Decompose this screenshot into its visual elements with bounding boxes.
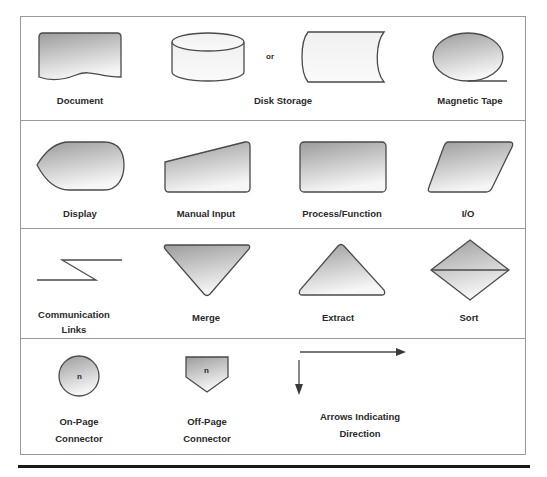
row-divider	[20, 228, 526, 229]
document-icon	[36, 31, 126, 83]
or-separator: or	[266, 52, 274, 61]
magnetic-tape-icon	[433, 30, 509, 86]
magnetic-tape-label: Magnetic Tape	[437, 93, 502, 108]
process-function-label: Process/Function	[302, 206, 382, 221]
off-page-connector-icon	[184, 355, 230, 395]
disk-storage-cylinder-icon	[170, 30, 246, 86]
display-icon	[36, 140, 126, 196]
on-page-connector-label: On-Page Connector	[55, 414, 103, 446]
off-page-connector-glyph: n	[204, 366, 209, 375]
off-page-connector-label: Off-Page Connector	[183, 414, 231, 446]
io-label: I/O	[462, 206, 475, 221]
communication-links-label: Communication Links	[38, 307, 110, 337]
sort-icon	[430, 238, 512, 304]
display-label: Display	[63, 206, 97, 221]
extract-label: Extract	[322, 310, 354, 325]
arrows-direction-icon	[292, 346, 412, 398]
merge-label: Merge	[192, 310, 220, 325]
disk-storage-label: Disk Storage	[254, 93, 312, 108]
sort-label: Sort	[460, 310, 479, 325]
row-divider	[20, 120, 526, 121]
arrows-direction-label: Arrows Indicating Direction	[320, 409, 400, 441]
process-function-icon	[298, 140, 388, 196]
row-divider	[20, 338, 526, 339]
on-page-connector-glyph: n	[77, 372, 82, 381]
bottom-rule	[18, 465, 530, 468]
communication-links-icon	[36, 255, 126, 287]
document-label: Document	[57, 93, 103, 108]
disk-storage-drum-icon	[298, 30, 388, 86]
extract-icon	[298, 243, 388, 299]
manual-input-label: Manual Input	[177, 206, 236, 221]
manual-input-icon	[163, 140, 253, 196]
merge-icon	[163, 243, 253, 299]
io-icon	[426, 140, 516, 196]
